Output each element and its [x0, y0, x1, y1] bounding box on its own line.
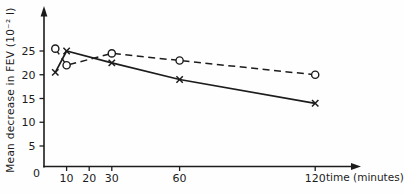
circle-marker	[176, 57, 183, 64]
x-tick-label: 20	[82, 172, 96, 185]
x-tick-label: 120	[305, 172, 326, 185]
x-axis-label: time (minutes)	[326, 171, 404, 183]
y-axis-arrow-icon	[41, 6, 48, 17]
circle-marker	[63, 62, 70, 69]
chart-canvas: 051015202510203060120	[0, 0, 404, 194]
y-tick-label: 15	[22, 93, 36, 106]
x-tick-label: 60	[173, 172, 187, 185]
y-tick-label: 25	[22, 45, 36, 58]
series-line-open-circle-dashed	[55, 49, 315, 75]
y-tick-label: 20	[22, 69, 36, 82]
circle-marker	[312, 71, 319, 78]
y-tick-label: 5	[29, 140, 36, 153]
series-line-cross-solid	[55, 51, 315, 103]
x-tick-label: 30	[105, 172, 119, 185]
circle-marker	[52, 45, 59, 52]
circle-marker	[108, 50, 115, 57]
fev-time-chart: Mean decrease in FEV (10⁻² l) 0510152025…	[0, 0, 404, 194]
x-tick-label: 10	[60, 172, 74, 185]
y-tick-label: 10	[22, 116, 36, 129]
origin-tick-label: 0	[33, 167, 40, 180]
x-axis-arrow-icon	[351, 163, 361, 170]
